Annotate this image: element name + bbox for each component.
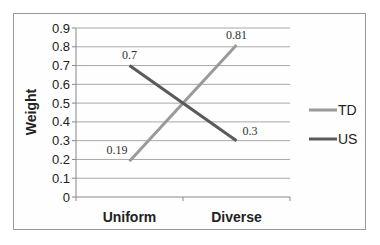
legend-label-us: US xyxy=(338,131,357,147)
y-tick-label: 0.6 xyxy=(52,77,70,92)
data-label: 0.7 xyxy=(122,48,137,62)
legend: TDUS xyxy=(309,102,357,147)
y-tick-label: 0.7 xyxy=(52,58,70,73)
x-category-label: Uniform xyxy=(103,209,157,225)
data-label: 0.3 xyxy=(243,124,258,138)
axes xyxy=(76,28,290,201)
x-category-label: Diverse xyxy=(211,209,262,225)
y-tick-label: 0.9 xyxy=(52,21,70,36)
y-axis-label: Weight xyxy=(23,88,39,135)
x-axis-categories: UniformDiverse xyxy=(103,209,262,225)
legend-label-td: TD xyxy=(338,102,357,118)
y-tick-label: 0 xyxy=(63,190,70,205)
y-tick-label: 0.3 xyxy=(52,133,70,148)
y-tick-label: 0.4 xyxy=(52,114,70,129)
y-tick-label: 0.8 xyxy=(52,39,70,54)
y-tick-label: 0.5 xyxy=(52,96,70,111)
data-label: 0.19 xyxy=(107,143,128,157)
data-label: 0.81 xyxy=(226,28,247,42)
y-tick-label: 0.1 xyxy=(52,171,70,186)
line-chart: 00.10.20.30.40.50.60.70.80.9 UniformDive… xyxy=(0,0,380,245)
y-axis-ticks: 00.10.20.30.40.50.60.70.80.9 xyxy=(52,21,76,205)
y-tick-label: 0.2 xyxy=(52,152,70,167)
